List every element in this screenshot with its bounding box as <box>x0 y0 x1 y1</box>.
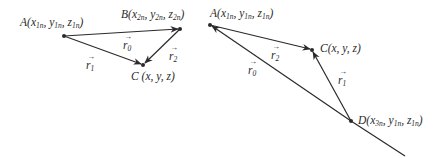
coord-y-sub: 2n <box>155 13 163 22</box>
left-diagram <box>62 27 182 67</box>
right-diagram <box>208 23 405 156</box>
point-letter: B <box>121 8 128 20</box>
coord-z-sub: 1n <box>262 12 270 21</box>
vector-arrow-icon: → <box>170 44 178 52</box>
coord-z-sub: 1n <box>72 21 80 30</box>
right-point-c-label: C(x, y, z) <box>320 43 361 55</box>
vector-subscript: 2 <box>275 54 279 63</box>
paren-close: ) <box>80 16 84 28</box>
right-point-a-dot <box>208 23 212 27</box>
coord-y-sub: 1n <box>54 21 62 30</box>
left-vector-r0-label: →r0 <box>123 40 131 52</box>
point-letter: A <box>210 7 217 19</box>
left-point-c-label: C (x, y, z) <box>131 71 175 83</box>
left-point-a-dot <box>62 34 66 38</box>
paren-close: ) <box>270 7 274 19</box>
vector-subscript: 1 <box>342 79 346 88</box>
right-point-d-dot <box>349 119 353 123</box>
vector-arrow-icon: → <box>249 58 257 66</box>
left-point-c-dot <box>141 63 145 67</box>
right-vector-r0-line <box>212 26 351 121</box>
vector-arrow-icon: → <box>87 53 95 61</box>
coord-z-sub: 2n <box>173 13 181 22</box>
left-vector-r1-label: →r1 <box>86 60 94 72</box>
left-vector-r2-label: →r2 <box>169 51 177 63</box>
left-point-b-dot <box>178 27 182 31</box>
coord-z-sub: 1n <box>411 119 419 128</box>
left-vector-r0-line <box>64 29 178 36</box>
vector-arrow-icon: → <box>339 68 347 76</box>
right-vector-r2-line <box>210 25 310 49</box>
point-letter: A <box>20 16 27 28</box>
vector-subscript: 0 <box>252 69 256 78</box>
vector-subscript: 0 <box>127 44 131 53</box>
coord-x-sub: 3n <box>375 119 383 128</box>
vector-subscript: 1 <box>90 64 94 73</box>
vector-subscript: 2 <box>173 55 177 64</box>
paren-close: ) <box>181 8 185 20</box>
right-point-c-dot <box>310 48 314 52</box>
paren-close: ) <box>419 114 423 126</box>
right-point-d-label: D(x3n, y1n, z1n) <box>358 115 423 127</box>
left-point-a-label: A(x1n, y1n, z1n) <box>20 17 83 29</box>
right-vector-r0-label: →r0 <box>248 65 256 77</box>
coord-y-sub: 1n <box>394 119 402 128</box>
vector-arrow-icon: → <box>124 33 132 41</box>
right-vector-r2-label: →r2 <box>271 50 279 62</box>
left-point-b-label: B(x2n, y2n, z2n) <box>121 9 184 21</box>
coord-y-sub: 1n <box>244 12 252 21</box>
vector-arrow-icon: → <box>272 43 280 51</box>
right-vector-r1-label: →r1 <box>338 75 346 87</box>
right-point-a-label: A(x1n, y1n, z1n) <box>210 8 273 20</box>
